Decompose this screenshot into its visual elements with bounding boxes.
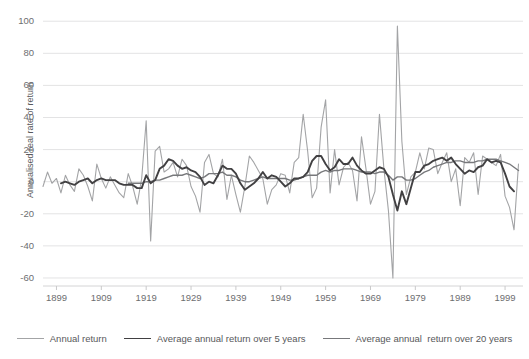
series-line — [43, 26, 519, 278]
chart-legend: Annual returnAverage annual return over … — [0, 333, 529, 344]
legend-item[interactable]: Average annual return over 5 years — [124, 333, 306, 344]
legend-item[interactable]: Annual return — [17, 333, 107, 344]
legend-label: Average annual return over 5 years — [157, 333, 306, 344]
chart-container: Annualised real rate of return 100806040… — [0, 0, 529, 359]
legend-swatch — [17, 338, 44, 339]
legend-swatch — [323, 338, 350, 339]
series-line — [128, 159, 518, 183]
legend-swatch — [124, 338, 151, 339]
legend-label: Annual return — [50, 333, 107, 344]
chart-plot-area — [0, 0, 529, 359]
legend-item[interactable]: Average annual return over 20 years — [323, 333, 513, 344]
legend-label: Average annual return over 20 years — [356, 333, 513, 344]
